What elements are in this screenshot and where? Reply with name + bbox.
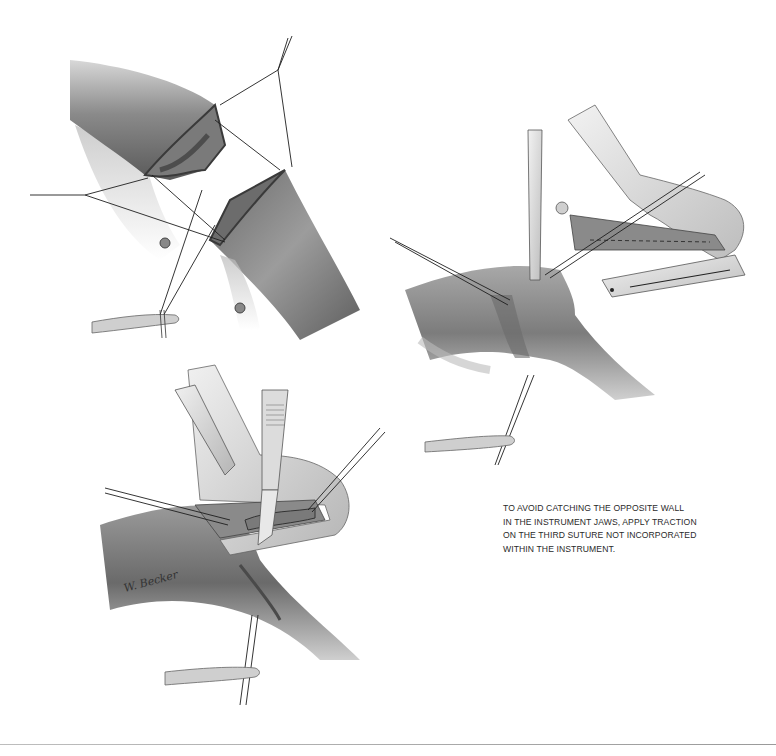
caption-line: ON THE THIRD SUTURE NOT INCORPORATED xyxy=(503,529,743,543)
caption-line: WITHIN THE INSTRUMENT. xyxy=(503,543,743,557)
bottom-divider xyxy=(0,744,776,745)
panel-bowel-ends xyxy=(30,30,370,350)
caption-line: IN THE INSTRUMENT JAWS, APPLY TRACTION xyxy=(503,516,743,530)
panel-scalpel-excision: W. Becker xyxy=(100,360,400,710)
illustration-plate: W. Becker TO AVOID CATCHING THE OPPOSITE… xyxy=(0,0,776,756)
instrument-application-illustration xyxy=(390,100,770,470)
panel-instrument-application xyxy=(390,100,770,470)
figure-caption: TO AVOID CATCHING THE OPPOSITE WALL IN T… xyxy=(503,502,743,556)
bowel-ends-illustration xyxy=(30,30,370,350)
scalpel-excision-illustration: W. Becker xyxy=(100,360,400,710)
caption-line: TO AVOID CATCHING THE OPPOSITE WALL xyxy=(503,502,743,516)
